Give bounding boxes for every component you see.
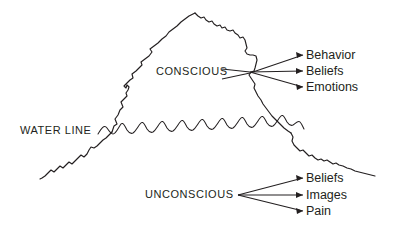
water-line-wave [98, 115, 304, 134]
conscious-leader-behavior [250, 55, 303, 73]
unconscious-region-label: UNCONSCIOUS [145, 189, 234, 200]
arrow-head-unconscious-beliefs [296, 175, 303, 181]
unconscious-leader-pain [238, 195, 303, 211]
conscious-region-label: CONSCIOUS [156, 66, 228, 77]
arrow-head-unconscious-images [296, 192, 303, 198]
conscious-leader-group [222, 52, 303, 90]
conscious-item-emotions: Emotions [306, 80, 358, 94]
unconscious-item-pain: Pain [306, 204, 331, 218]
arrow-head-emotions [296, 84, 303, 90]
unconscious-leader-beliefs [238, 178, 303, 195]
conscious-item-beliefs: Beliefs [306, 64, 344, 78]
iceberg-left-underwater-edge [40, 132, 112, 179]
conscious-item-labels: Behavior Beliefs Emotions [306, 48, 358, 94]
iceberg-diagram-canvas: Behavior Beliefs Emotions Beliefs Images… [0, 0, 393, 233]
arrow-head-unconscious-pain [296, 208, 303, 214]
unconscious-item-images: Images [306, 188, 347, 202]
unconscious-leader-group [238, 175, 303, 214]
water-line-label: WATER LINE [20, 125, 92, 136]
iceberg-right-underwater-edge [291, 133, 375, 176]
conscious-item-behavior: Behavior [306, 48, 355, 62]
conscious-leader-beliefs [250, 71, 303, 72]
conscious-leader-emotions [250, 72, 303, 87]
arrow-head-beliefs [296, 68, 303, 74]
unconscious-item-beliefs: Beliefs [306, 171, 344, 185]
unconscious-item-labels: Beliefs Images Pain [306, 171, 347, 218]
arrow-head-behavior [296, 52, 303, 58]
